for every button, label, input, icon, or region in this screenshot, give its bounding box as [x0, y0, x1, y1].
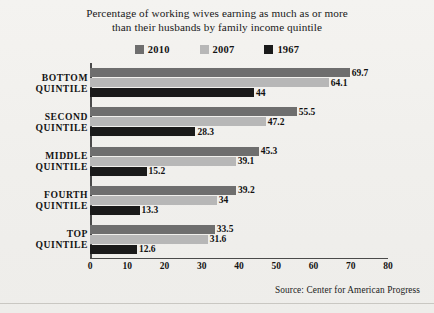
bar-2007: [90, 235, 208, 244]
bar-value-label: 64.1: [329, 78, 348, 88]
x-tick-label: 0: [88, 261, 93, 271]
category-label-line: QUINTILE: [2, 200, 88, 211]
x-axis-tick-labels: 01020304050607080: [90, 261, 388, 275]
bar-value-label: 44: [254, 88, 266, 98]
title-line-2: than their husbands by family income qui…: [0, 20, 434, 34]
category-label: TOPQUINTILE: [2, 228, 88, 250]
bar-value-label: 34: [217, 195, 229, 205]
legend-swatch-icon-2010: [135, 45, 144, 54]
category-label: MIDDLEQUINTILE: [2, 150, 88, 172]
bar-1967: [90, 245, 137, 254]
bar-2010: [90, 107, 297, 116]
bar-2007: [90, 157, 236, 166]
bar-value-label: 39.1: [236, 156, 255, 166]
category-label-line: QUINTILE: [2, 161, 88, 172]
category-label-line: SECOND: [2, 111, 88, 122]
category-label-line: TOP: [2, 228, 88, 239]
legend-item-2007: 2007: [200, 44, 235, 55]
x-tick-label: 10: [123, 261, 133, 271]
bottom-divider: [0, 303, 434, 304]
bar-row: 39.1: [90, 157, 388, 166]
bar-row: 64.1: [90, 78, 388, 87]
bar-row: 47.2: [90, 117, 388, 126]
bar-2010: [90, 147, 259, 156]
x-axis-line: [90, 258, 388, 260]
bar-value-label: 33.5: [215, 224, 234, 234]
category-label: BOTTOMQUINTILE: [2, 72, 88, 94]
bar-row: 69.7: [90, 68, 388, 77]
x-tick-label: 20: [160, 261, 170, 271]
chart-legend: 201020071967: [0, 44, 434, 55]
category-axis-labels: BOTTOMQUINTILESECONDQUINTILEMIDDLEQUINTI…: [0, 63, 88, 259]
title-line-1: Percentage of working wives earning as m…: [0, 6, 434, 20]
bar-row: 33.5: [90, 225, 388, 234]
bar-group: 33.531.612.6: [90, 225, 388, 255]
bar-value-label: 31.6: [208, 234, 227, 244]
x-tick-label: 40: [234, 261, 244, 271]
legend-label: 2007: [213, 44, 235, 55]
bar-row: 45.3: [90, 147, 388, 156]
category-label: SECONDQUINTILE: [2, 111, 88, 133]
bar-1967: [90, 167, 147, 176]
bar-group: 45.339.115.2: [90, 147, 388, 177]
bar-1967: [90, 127, 195, 136]
bar-row: 15.2: [90, 167, 388, 176]
bar-1967: [90, 88, 254, 97]
chart-title: Percentage of working wives earning as m…: [0, 6, 434, 34]
bar-group: 55.547.228.3: [90, 107, 388, 137]
category-label-line: FOURTH: [2, 189, 88, 200]
bar-value-label: 55.5: [297, 107, 316, 117]
bar-2010: [90, 225, 215, 234]
bar-2007: [90, 117, 266, 126]
bar-row: 13.3: [90, 206, 388, 215]
bar-row: 12.6: [90, 245, 388, 254]
x-tick-label: 50: [272, 261, 282, 271]
bar-group: 69.764.144: [90, 68, 388, 98]
source-note: Source: Center for American Progress: [275, 285, 420, 295]
bar-2010: [90, 68, 350, 77]
bar-value-label: 28.3: [195, 127, 214, 137]
legend-swatch-icon-2007: [200, 45, 209, 54]
legend-item-2010: 2010: [135, 44, 170, 55]
bar-row: 31.6: [90, 235, 388, 244]
x-tick-label: 80: [383, 261, 393, 271]
bar-value-label: 47.2: [266, 117, 285, 127]
bar-value-label: 15.2: [147, 166, 166, 176]
bar-2010: [90, 186, 236, 195]
bar-2007: [90, 196, 217, 205]
bar-2007: [90, 78, 329, 87]
bar-row: 34: [90, 196, 388, 205]
bar-value-label: 39.2: [236, 185, 255, 195]
bar-row: 44: [90, 88, 388, 97]
legend-swatch-icon-1967: [264, 45, 273, 54]
category-label-line: BOTTOM: [2, 72, 88, 83]
category-label: FOURTHQUINTILE: [2, 189, 88, 211]
bar-value-label: 13.3: [140, 205, 159, 215]
chart-page: Percentage of working wives earning as m…: [0, 0, 434, 313]
bar-row: 55.5: [90, 107, 388, 116]
bar-row: 28.3: [90, 127, 388, 136]
plot-area: 69.764.14455.547.228.345.339.115.239.234…: [90, 63, 388, 259]
bar-value-label: 69.7: [350, 68, 369, 78]
x-tick-label: 70: [346, 261, 356, 271]
x-tick-label: 60: [309, 261, 319, 271]
category-label-line: QUINTILE: [2, 122, 88, 133]
bar-group: 39.23413.3: [90, 186, 388, 216]
category-label-line: QUINTILE: [2, 239, 88, 250]
legend-label: 1967: [277, 44, 299, 55]
x-tick-label: 30: [197, 261, 207, 271]
bar-value-label: 12.6: [137, 244, 156, 254]
legend-item-1967: 1967: [264, 44, 299, 55]
bar-row: 39.2: [90, 186, 388, 195]
category-label-line: MIDDLE: [2, 150, 88, 161]
category-label-line: QUINTILE: [2, 83, 88, 94]
bar-1967: [90, 206, 140, 215]
bar-value-label: 45.3: [259, 146, 278, 156]
legend-label: 2010: [148, 44, 170, 55]
